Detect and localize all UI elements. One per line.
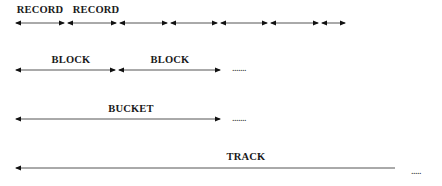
bucket-continuation: ....... bbox=[232, 112, 246, 123]
track-label: TRACK bbox=[227, 151, 266, 162]
track-continuation: ..... bbox=[411, 165, 421, 176]
record-label-2: RECORD bbox=[73, 4, 120, 15]
block-label-2: BLOCK bbox=[151, 54, 190, 65]
block-label-1: BLOCK bbox=[52, 54, 91, 65]
block-continuation: ....... bbox=[232, 62, 246, 73]
arrow-lines bbox=[0, 0, 442, 186]
bucket-label: BUCKET bbox=[108, 103, 154, 114]
record-label-1: RECORD bbox=[17, 4, 64, 15]
